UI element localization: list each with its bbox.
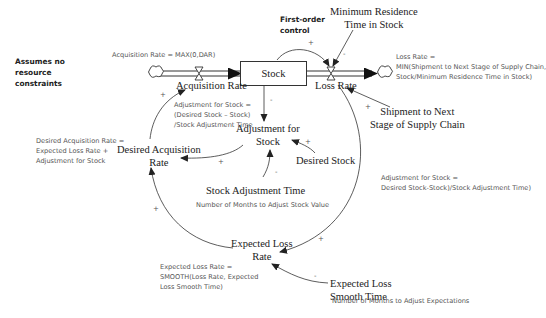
dar-eq-line-3: Adjustment for Stock (36, 156, 124, 166)
assumption-line-3: constraints (15, 78, 65, 89)
polarity-dar-to-acquisition: + (160, 91, 166, 99)
expected-loss-rate-equation: Expected Loss Rate = SMOOTH(Loss Rate, E… (160, 262, 258, 292)
dar-line-1: Desired Acquisition (117, 143, 201, 156)
link-minres-to-loss (333, 30, 353, 66)
desired-acquisition-rate-equation: Desired Acquisition Rate = Expected Loss… (36, 136, 124, 166)
polarity-sat-to-adjustment: - (275, 168, 278, 176)
first-order-control-note: First-order control (280, 14, 325, 36)
dar-line-2: Rate (117, 156, 201, 169)
shipment-line-2: Stage of Supply Chain (370, 118, 465, 131)
link-elst-to-elr (272, 264, 328, 283)
shipment-variable[interactable]: Shipment to Next Stage of Supply Chain (370, 105, 465, 131)
elr-eq-line-3: Loss Smooth Time) (160, 282, 258, 292)
elr-eq-line-2: SMOOTH(Loss Rate, Expected (160, 272, 258, 282)
control-line-1: First-order (280, 14, 325, 25)
desired-stock-variable[interactable]: Desired Stock (296, 154, 355, 167)
polarity-shipment-to-loss: + (365, 103, 371, 111)
stock-adjustment-time-note: Number of Months to Adjust Stock Value (196, 200, 329, 210)
adj-line-2: Stock (236, 135, 300, 148)
adj-eq-line-1: Adjustment for Stock = (174, 100, 253, 110)
elr-line-1: Expected Loss (231, 237, 293, 250)
source-cloud-icon (149, 66, 164, 77)
link-loss-to-elr (280, 85, 361, 252)
polarity-stock-to-adjustment: - (270, 96, 273, 104)
elst-line-1: Expected Loss (330, 277, 392, 290)
polarity-elst-to-elr: - (314, 272, 317, 280)
sink-cloud-icon (378, 66, 393, 77)
assumption-line-2: resource (15, 67, 65, 78)
min-res-line-2: Time in Stock (330, 18, 418, 31)
assumption-line-1: Assumes no (15, 56, 65, 67)
adjustment-equation-right: Adjustment for Stock = Desired Stock-Sto… (381, 173, 531, 193)
expected-loss-smooth-time-note: Number of Months to Adjust Expectations (332, 296, 469, 306)
polarity-stock-to-loss: + (308, 39, 314, 47)
link-sat-to-adjustment (263, 150, 270, 177)
acquisition-rate-label[interactable]: Acquisition Rate (176, 79, 247, 92)
dar-eq-line-1: Desired Acquisition Rate = (36, 136, 124, 146)
acquisition-rate-equation: Acquisition Rate = MAX(0,DAR) (112, 50, 215, 60)
control-line-2: control (280, 25, 325, 36)
polarity-adjustment-to-dar: + (218, 158, 224, 166)
polarity-loss-to-elr: + (318, 235, 324, 243)
loss-eq-line-3: Stock/Minimum Residence Time in Stock) (396, 72, 546, 82)
dar-eq-line-2: Expected Loss Rate + (36, 146, 124, 156)
polarity-desiredstock-to-adjustment: + (305, 138, 311, 146)
adjustment-equation-inner: Adjustment for Stock = (Desired Stock – … (174, 100, 253, 130)
loss-pipe (306, 71, 377, 76)
adj-eq-line-3: /Stock Adjustment Time (174, 120, 253, 130)
loss-eq-line-1: Loss Rate = (396, 52, 546, 62)
adj-right-line-1: Adjustment for Stock = (381, 173, 531, 183)
stock-label: Stock (262, 68, 286, 79)
adj-right-line-2: Desired Stock-Stock)/Stock Adjustment Ti… (381, 183, 531, 193)
adj-eq-line-2: (Desired Stock – Stock) (174, 110, 253, 120)
shipment-line-1: Shipment to Next (370, 105, 465, 118)
expected-loss-rate-variable[interactable]: Expected Loss Rate (231, 237, 293, 263)
stock-box[interactable]: Stock (240, 61, 307, 86)
desired-acquisition-rate-variable[interactable]: Desired Acquisition Rate (117, 143, 201, 169)
loss-rate-equation: Loss Rate = MIN(Shipment to Next Stage o… (396, 52, 546, 82)
assumption-note: Assumes no resource constraints (15, 56, 65, 89)
stock-adjustment-time-variable[interactable]: Stock Adjustment Time (206, 184, 305, 197)
min-res-line-1: Minimum Residence (330, 5, 418, 18)
polarity-minres-to-loss: - (343, 50, 346, 58)
minimum-residence-time-variable[interactable]: Minimum Residence Time in Stock (330, 5, 418, 31)
elr-eq-line-1: Expected Loss Rate = (160, 262, 258, 272)
loss-rate-label[interactable]: Loss Rate (315, 79, 357, 92)
polarity-elr-to-dar: + (153, 205, 159, 213)
loss-eq-line-2: MIN(Shipment to Next Stage of Supply Cha… (396, 62, 546, 72)
